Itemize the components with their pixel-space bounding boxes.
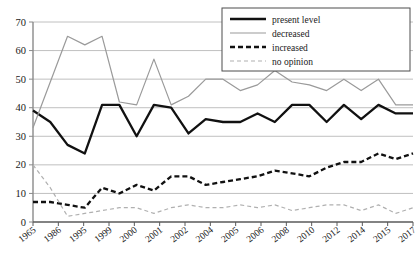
y-tick-label: 60 (16, 45, 27, 56)
chart-container: 010203040506070 196519861995199920002001… (0, 0, 420, 265)
x-tick-label: 2002 (169, 225, 190, 245)
x-tick-label: 2001 (143, 225, 164, 245)
x-tick-label: 2017 (397, 225, 418, 245)
y-axis-ticks: 010203040506070 (16, 17, 34, 228)
series-line-present-level (33, 105, 413, 154)
y-tick-label: 0 (21, 217, 26, 228)
x-axis-ticks: 1965198619951999200020012002200420052006… (17, 222, 418, 244)
x-tick-label: 2012 (321, 225, 342, 245)
x-tick-label: 2005 (219, 225, 240, 245)
y-tick-label: 30 (16, 131, 27, 142)
line-chart: 010203040506070 196519861995199920002001… (0, 0, 420, 265)
legend-label-increased: increased (272, 43, 308, 53)
x-tick-label: 1995 (67, 225, 88, 245)
x-tick-label: 2015 (371, 225, 392, 245)
x-tick-label: 2004 (194, 225, 215, 245)
chart-legend: present leveldecreasedincreasedno opinio… (222, 8, 410, 71)
y-tick-label: 50 (16, 74, 27, 85)
legend-label-decreased: decreased (272, 29, 310, 39)
x-tick-label: 1986 (42, 225, 63, 245)
series-line-increased (33, 153, 413, 207)
legend-label-present-level: present level (272, 15, 321, 25)
x-tick-label: 2014 (346, 225, 367, 245)
legend-label-no-opinion: no opinion (272, 57, 313, 67)
y-tick-label: 40 (16, 102, 27, 113)
x-tick-label: 1999 (93, 225, 114, 245)
x-tick-label: 2006 (245, 225, 266, 245)
x-tick-label: 2000 (118, 225, 139, 245)
y-tick-label: 20 (16, 159, 27, 170)
y-tick-label: 10 (16, 188, 27, 199)
y-tick-label: 70 (16, 17, 27, 28)
x-tick-label: 2010 (295, 225, 316, 245)
x-tick-label: 2008 (270, 225, 291, 245)
series-line-no-opinion (33, 165, 413, 216)
